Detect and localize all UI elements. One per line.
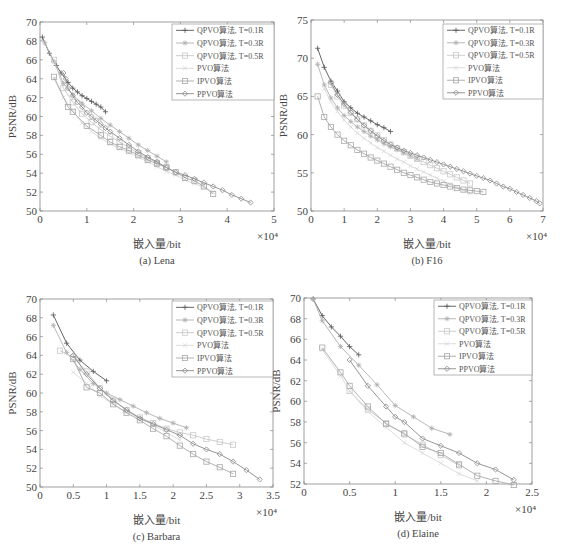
x-tick-label: 2 [131, 213, 137, 225]
y-tick-label: 68 [26, 312, 38, 324]
data-point-marker-icon [356, 363, 361, 368]
y-tick-label: 56 [26, 425, 38, 437]
data-point-marker-icon [154, 154, 159, 159]
data-point-marker-icon [368, 118, 373, 123]
series-line [318, 48, 391, 131]
legend-marker-icon [453, 40, 458, 45]
y-axis-label: PSNR/dB [6, 95, 18, 138]
x-tick-label: 2.5 [200, 489, 214, 501]
legend-entry-label: PVO算法 [197, 340, 229, 350]
data-point-marker-icon [71, 370, 75, 374]
legend-entry-label: QPVO算法, T=0.3R [197, 315, 264, 325]
data-point-marker-icon [422, 170, 426, 174]
x-tick-label: 0 [301, 486, 307, 498]
data-point-marker-icon [388, 129, 393, 134]
y-tick-label: 60 [26, 111, 38, 123]
y-tick-label: 58 [26, 406, 38, 418]
x-tick-label: 6 [507, 213, 513, 225]
chart-caption: (c) Barbara [133, 531, 181, 543]
y-tick-label: 64 [26, 349, 38, 361]
x-tick-label: 1.5 [133, 489, 147, 501]
chart-3: 00.511.522.552545658606264666870×10⁴嵌入量/… [270, 292, 539, 540]
data-point-marker-icon [439, 461, 443, 465]
data-point-marker-icon [395, 157, 399, 161]
x-tick-label: 2 [375, 213, 381, 225]
legend-entry-label: QPVO算法, T=0.5R [459, 326, 526, 336]
y-tick-label: 70 [26, 16, 38, 28]
data-point-marker-icon [136, 142, 141, 147]
data-point-marker-icon [338, 344, 343, 349]
data-point-marker-icon [315, 62, 320, 67]
x-multiplier: ×10⁴ [257, 230, 278, 242]
legend-marker-icon [182, 317, 187, 322]
data-point-marker-icon [361, 114, 366, 119]
legend-entry-label: PPVO算法 [459, 364, 495, 374]
data-point-marker-icon [388, 153, 392, 157]
data-point-marker-icon [184, 425, 189, 430]
x-tick-label: 2 [484, 486, 490, 498]
data-point-marker-icon [348, 119, 353, 124]
data-point-marker-icon [411, 414, 416, 419]
x-axis-label: 嵌入量/bit [394, 511, 442, 523]
data-point-marker-icon [171, 420, 176, 425]
y-tick-label: 54 [26, 167, 38, 179]
legend-entry-label: PPVO算法 [197, 366, 233, 376]
legend-entry-label: QPVO算法, T=0.3R [197, 38, 264, 48]
legend-entry-label: PVO算法 [468, 63, 500, 73]
data-point-marker-icon [322, 65, 327, 70]
data-point-marker-icon [117, 397, 122, 402]
y-tick-label: 58 [290, 416, 302, 428]
data-point-marker-icon [84, 96, 89, 101]
data-point-marker-icon [361, 129, 366, 134]
data-point-marker-icon [349, 125, 353, 129]
chart-caption: (d) Elaine [397, 528, 439, 540]
legend-entry-label: QPVO算法, T=0.1R [459, 301, 526, 311]
y-tick-label: 66 [26, 54, 38, 66]
data-point-marker-icon [89, 99, 94, 104]
data-point-marker-icon [382, 149, 386, 153]
chart-1: 01234567505560657075×10⁴嵌入量/bitPSNR/dB(b… [277, 14, 547, 267]
legend-entry-label: IPVO算法 [197, 76, 232, 86]
data-point-marker-icon [145, 148, 150, 153]
data-point-marker-icon [320, 318, 325, 323]
legend-entry-label: QPVO算法, T=0.1R [197, 302, 264, 312]
y-tick-label: 54 [26, 443, 38, 455]
y-axis-label: PSNR/dB [6, 371, 18, 414]
data-point-marker-icon [157, 416, 162, 421]
y-tick-label: 70 [297, 52, 309, 64]
data-point-marker-icon [348, 389, 352, 393]
legend-entry-label: IPVO算法 [459, 351, 494, 361]
chart-0: 0123455052545658606264666870×10⁴嵌入量/bitP… [6, 16, 278, 267]
data-point-marker-icon [164, 159, 169, 164]
y-tick-label: 68 [290, 313, 302, 325]
data-point-marker-icon [447, 432, 452, 437]
chart-2: 00.511.522.533.55052545658606264666870×1… [6, 293, 280, 543]
x-tick-label: 1 [392, 486, 398, 498]
series-1 [311, 296, 453, 437]
y-axis-label: PSNR/dB [270, 369, 282, 412]
y-tick-label: 70 [290, 292, 302, 304]
y-tick-label: 64 [290, 354, 302, 366]
data-point-marker-icon [51, 312, 56, 317]
y-tick-label: 58 [26, 129, 38, 141]
y-tick-label: 52 [26, 462, 37, 474]
data-point-marker-icon [117, 129, 122, 134]
x-tick-label: 1.5 [434, 486, 448, 498]
y-tick-label: 68 [26, 35, 38, 47]
y-tick-label: 66 [26, 331, 38, 343]
legend: QPVO算法, T=0.1RQPVO算法, T=0.3RQPVO算法, T=0.… [172, 24, 274, 100]
data-point-marker-icon [131, 404, 136, 409]
y-tick-label: 50 [26, 481, 38, 493]
data-point-marker-icon [402, 160, 406, 164]
series-line [313, 299, 450, 434]
data-point-marker-icon [457, 472, 461, 476]
data-point-marker-icon [402, 441, 406, 445]
data-point-marker-icon [311, 296, 316, 301]
figure-canvas: 0123455052545658606264666870×10⁴嵌入量/bitP… [0, 0, 562, 559]
y-tick-label: 60 [290, 395, 302, 407]
data-point-marker-icon [94, 102, 99, 107]
y-tick-label: 50 [26, 205, 38, 217]
data-point-marker-icon [57, 348, 62, 353]
y-tick-label: 70 [26, 293, 38, 305]
y-tick-label: 60 [26, 387, 38, 399]
